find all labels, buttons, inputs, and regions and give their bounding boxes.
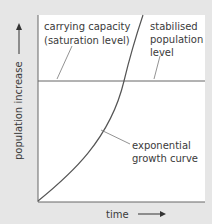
y-axis-label: population increase [13, 61, 24, 160]
x-axis-label: time [106, 209, 129, 220]
label-exponential: exponential [132, 140, 191, 151]
chart: carrying capacity (saturation level) sta… [0, 0, 212, 224]
label-growth-curve: growth curve [132, 153, 198, 164]
label-carrying-capacity: carrying capacity [44, 21, 131, 32]
x-arrow-icon [160, 211, 166, 217]
y-arrow-icon [16, 23, 22, 30]
label-level: level [150, 47, 174, 58]
label-stabilised: stabilised [150, 21, 198, 32]
label-saturation-level: (saturation level) [44, 35, 130, 46]
label-population: population [150, 34, 203, 45]
